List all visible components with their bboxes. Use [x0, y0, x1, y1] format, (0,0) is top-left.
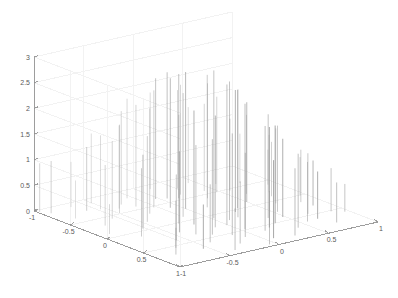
- z-tick-label: 1.5: [20, 131, 30, 138]
- grid-walls: [34, 12, 378, 267]
- x-tick-label: 0.5: [327, 236, 337, 243]
- z-tick-mark: [34, 133, 38, 135]
- z-tick-label: 2.5: [20, 79, 30, 86]
- stem3-plot: 00.511.522.5310.50-0.5-1-1-0.500.51: [0, 0, 398, 298]
- z-tick-mark: [34, 56, 38, 58]
- x-tick-label: -1: [180, 270, 186, 277]
- z-tick-mark: [34, 184, 38, 186]
- z-tick-mark: [34, 107, 38, 109]
- y-tick-label: -1: [29, 214, 35, 221]
- z-tick-mark: [34, 158, 38, 160]
- axis-tick-labels: 00.511.522.5310.50-0.5-1-1-0.500.51: [20, 54, 383, 278]
- z-tick-label: 3: [26, 54, 30, 61]
- z-tick-label: 2: [26, 105, 30, 112]
- z-tick-label: 1: [26, 156, 30, 163]
- z-tick-label: 0.5: [20, 182, 30, 189]
- axis-tick-marks: [34, 56, 378, 268]
- y-tick-label: 0.5: [137, 256, 147, 263]
- x-tick-label: 0: [280, 248, 284, 255]
- y-tick-label: 0: [103, 242, 107, 249]
- z-tick-mark: [34, 81, 38, 83]
- y-tick-label: -0.5: [62, 228, 74, 235]
- figure-canvas: 00.511.522.5310.50-0.5-1-1-0.500.51: [0, 0, 398, 298]
- x-tick-label: -0.5: [226, 259, 238, 266]
- x-tick-label: 1: [379, 225, 383, 232]
